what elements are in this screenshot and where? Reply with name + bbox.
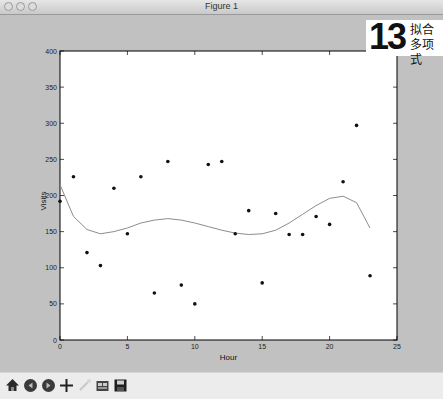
data-point bbox=[166, 160, 170, 164]
navigation-toolbar bbox=[0, 372, 443, 399]
data-point bbox=[139, 175, 143, 179]
subplots-icon bbox=[95, 378, 110, 393]
x-axis-label: Hour bbox=[220, 353, 238, 362]
data-point bbox=[355, 124, 359, 128]
x-tick-label: 5 bbox=[125, 343, 129, 350]
move-icon bbox=[59, 378, 74, 393]
data-point bbox=[153, 291, 157, 295]
badge-number: 13 bbox=[369, 17, 405, 57]
data-point bbox=[220, 160, 224, 164]
x-tick-label: 0 bbox=[58, 343, 62, 350]
forward-arrow-icon bbox=[41, 378, 56, 393]
subplots-button[interactable] bbox=[94, 377, 111, 394]
x-tick-label: 25 bbox=[393, 343, 401, 350]
y-tick-label: 50 bbox=[49, 300, 57, 307]
y-tick-label: 300 bbox=[45, 120, 57, 127]
data-point bbox=[301, 233, 305, 237]
x-tick-label: 10 bbox=[191, 343, 199, 350]
y-axis-label: Visits bbox=[39, 192, 48, 211]
zoom-button[interactable] bbox=[76, 377, 93, 394]
section-badge: 13 拟合 多项式 bbox=[366, 20, 443, 56]
x-tick-label: 20 bbox=[326, 343, 334, 350]
data-point bbox=[72, 175, 76, 179]
pan-button[interactable] bbox=[58, 377, 75, 394]
x-tick-label: 15 bbox=[258, 343, 266, 350]
data-point bbox=[58, 199, 62, 203]
y-tick-label: 350 bbox=[45, 84, 57, 91]
data-point bbox=[99, 264, 103, 268]
back-arrow-icon bbox=[23, 378, 38, 393]
data-point bbox=[328, 223, 332, 227]
data-point bbox=[247, 209, 251, 213]
home-icon bbox=[5, 378, 20, 393]
data-point bbox=[180, 283, 184, 287]
zoom-rect-icon bbox=[77, 378, 92, 393]
badge-label: 拟合 多项式 bbox=[410, 23, 443, 68]
y-tick-label: 400 bbox=[45, 48, 57, 55]
forward-button[interactable] bbox=[40, 377, 57, 394]
save-button[interactable] bbox=[112, 377, 129, 394]
data-point bbox=[126, 232, 130, 236]
data-point bbox=[85, 251, 89, 255]
data-point bbox=[287, 233, 291, 237]
data-point bbox=[233, 232, 237, 236]
back-button[interactable] bbox=[22, 377, 39, 394]
y-tick-label: 100 bbox=[45, 264, 57, 271]
data-point bbox=[193, 302, 197, 306]
y-tick-label: 150 bbox=[45, 228, 57, 235]
data-point bbox=[368, 274, 372, 278]
data-point bbox=[314, 215, 318, 219]
data-point bbox=[206, 163, 210, 167]
axes-frame bbox=[60, 51, 397, 340]
data-point bbox=[260, 281, 264, 285]
data-point bbox=[112, 186, 116, 190]
badge-line2: 多项式 bbox=[410, 38, 443, 68]
data-point bbox=[341, 180, 345, 184]
y-tick-label: 250 bbox=[45, 156, 57, 163]
home-button[interactable] bbox=[4, 377, 21, 394]
y-tick-label: 0 bbox=[53, 337, 57, 344]
data-point bbox=[274, 212, 278, 216]
badge-line1: 拟合 bbox=[410, 23, 443, 38]
save-icon bbox=[113, 378, 128, 393]
